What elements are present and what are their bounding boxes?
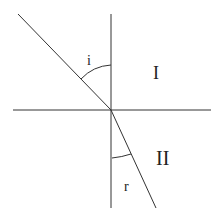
- diagram-lines: [0, 0, 220, 215]
- medium-1-label: I: [153, 64, 159, 82]
- refraction-diagram: i I II r: [0, 0, 220, 215]
- refraction-angle-label: r: [124, 180, 129, 194]
- refracted-ray: [111, 110, 156, 208]
- incidence-angle-label: i: [87, 54, 91, 68]
- incident-ray: [18, 14, 111, 110]
- medium-2-label: II: [156, 148, 169, 168]
- incidence-angle-arc: [81, 65, 111, 79]
- refraction-angle-arc: [112, 154, 131, 158]
